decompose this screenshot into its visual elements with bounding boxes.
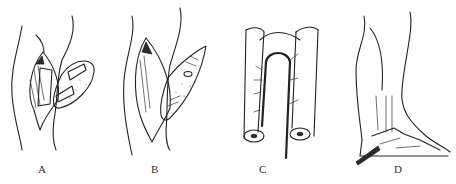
panel-c-drawing [244,27,318,158]
surgical-illustration [0,0,456,184]
panel-d-drawing [356,12,450,165]
panel-label-b: B [151,163,158,175]
panel-label-d: D [394,163,402,175]
panel-label-c: C [259,163,266,175]
panel-a-drawing [12,16,94,150]
panel-label-a: A [38,163,46,175]
panel-b-drawing [124,8,206,155]
